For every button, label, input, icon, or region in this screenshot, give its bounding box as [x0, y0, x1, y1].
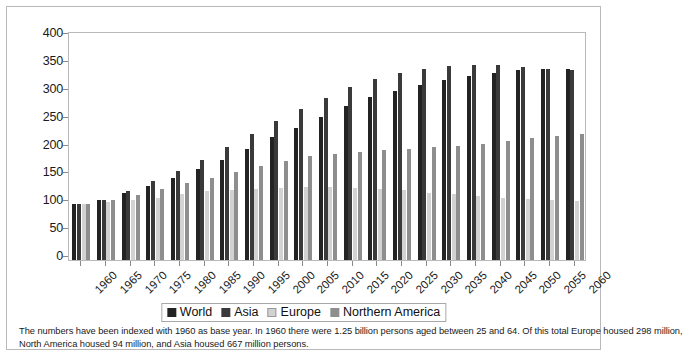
bar: [319, 117, 323, 260]
x-axis-label: 2050: [537, 269, 564, 296]
bar: [176, 171, 180, 260]
y-axis-label: 0: [56, 249, 63, 263]
bar: [304, 187, 308, 260]
bar-group: [316, 37, 341, 260]
y-axis-tick: [63, 256, 68, 257]
bar-group: [414, 37, 439, 260]
bar: [245, 149, 249, 260]
bar: [106, 202, 110, 260]
x-axis-label: 1985: [216, 269, 243, 296]
bar: [156, 198, 160, 260]
bar-group: [192, 37, 217, 260]
bar: [348, 87, 352, 260]
bar: [284, 161, 288, 260]
bar: [452, 194, 456, 260]
y-axis-tick: [63, 228, 68, 229]
x-axis-label: 2020: [389, 269, 416, 296]
x-axis-label: 2015: [364, 269, 391, 296]
bar: [550, 200, 554, 260]
x-axis-label: 2010: [339, 269, 366, 296]
bar-group: [266, 37, 291, 260]
bar: [220, 160, 224, 260]
bar-group: [538, 37, 563, 260]
bar: [111, 200, 115, 260]
bar-group: [513, 37, 538, 260]
bar: [546, 69, 550, 260]
bar: [97, 200, 101, 260]
bar: [328, 187, 332, 260]
bar: [432, 147, 436, 260]
bar: [398, 73, 402, 260]
x-axis-label: 1975: [167, 269, 194, 296]
bar: [467, 76, 471, 260]
bar: [570, 70, 574, 260]
bar-group: [439, 37, 464, 260]
bar: [393, 91, 397, 260]
bar: [382, 150, 386, 260]
bar: [171, 178, 175, 261]
bar: [230, 190, 234, 260]
legend-item-northern-america: Northern America: [330, 305, 440, 319]
bar: [77, 204, 81, 260]
y-axis-label: 250: [43, 110, 63, 124]
bar: [259, 166, 263, 260]
bar: [225, 147, 229, 260]
bar: [234, 172, 238, 260]
bar: [196, 169, 200, 260]
bar-group: [94, 37, 119, 260]
x-axis-label: 2000: [290, 269, 317, 296]
legend-item-asia: Asia: [221, 305, 258, 319]
y-axis-tick: [63, 89, 68, 90]
bar: [131, 200, 135, 260]
x-axis-label: 1970: [142, 269, 169, 296]
bar: [254, 189, 258, 260]
bar: [344, 106, 348, 260]
bar: [496, 65, 500, 260]
legend-label-europe: Europe: [281, 305, 321, 319]
bar-group: [143, 37, 168, 260]
bar: [526, 199, 530, 260]
bar: [580, 134, 584, 260]
footnote-line-1: The numbers have been indexed with 1960 …: [19, 325, 602, 338]
x-axis-label: 1980: [191, 269, 218, 296]
bar: [146, 186, 150, 260]
y-axis-label: 300: [43, 82, 63, 96]
x-axis-labels: 1960196519701975198019851990199520002005…: [68, 263, 586, 303]
bar-group: [168, 37, 193, 260]
bar: [541, 69, 545, 260]
y-axis-tick: [63, 200, 68, 201]
bar: [442, 80, 446, 260]
bar-group: [464, 37, 489, 260]
bar: [122, 193, 126, 260]
bar: [422, 69, 426, 260]
x-axis-label: 2025: [413, 269, 440, 296]
bar-group: [562, 37, 587, 260]
bar: [501, 198, 505, 260]
bar: [492, 73, 496, 260]
bar: [566, 69, 570, 260]
legend-swatch-europe: [268, 308, 277, 317]
y-axis-tick: [63, 172, 68, 173]
bar-group: [340, 37, 365, 260]
bar: [294, 128, 298, 260]
legend-swatch-northern-america: [330, 308, 339, 317]
y-axis-label: 400: [43, 26, 63, 40]
bar: [72, 204, 76, 260]
legend-item-europe: Europe: [268, 305, 321, 319]
bar: [102, 200, 106, 260]
bar-group: [69, 37, 94, 260]
footnote-line-2: North America housed 94 million, and Asi…: [19, 338, 602, 351]
bar: [358, 152, 362, 260]
y-axis-label: 200: [43, 138, 63, 152]
bar: [378, 189, 382, 260]
bar: [126, 191, 130, 260]
y-axis-tick: [63, 145, 68, 146]
plot-area: [68, 32, 586, 261]
bar: [506, 141, 510, 260]
bar: [407, 149, 411, 260]
bar: [205, 191, 209, 260]
bar: [575, 201, 579, 260]
bar: [274, 121, 278, 260]
bar: [481, 144, 485, 260]
bar: [136, 195, 140, 260]
